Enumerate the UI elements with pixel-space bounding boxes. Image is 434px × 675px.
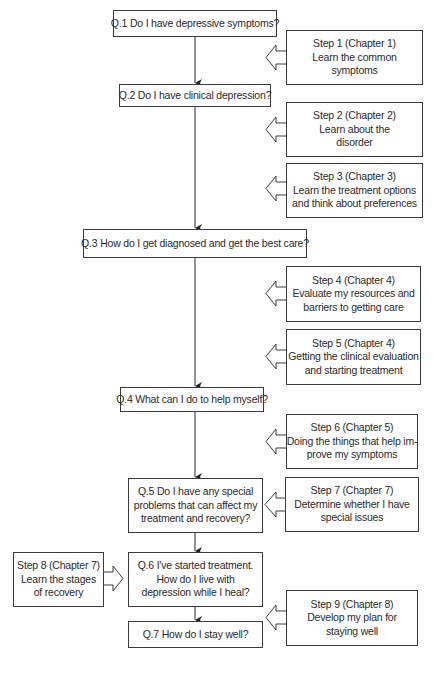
step-title: Step 8 (Chapter 7) <box>17 559 100 573</box>
step-text-line-1: Evaluate my resources and <box>292 287 414 301</box>
block-arrow-step1-icon <box>266 45 287 70</box>
step-text-line-1: Learn the common <box>312 51 396 65</box>
step-text-line-1: Doing the things that help im- <box>287 435 418 449</box>
question-text-line-3: treatment and recovery? <box>141 512 250 526</box>
block-arrow-step9-icon <box>266 605 287 630</box>
step-box-9: Step 9 (Chapter 8) Develop my plan for s… <box>286 590 418 646</box>
block-arrow-step2-icon <box>266 117 287 142</box>
step-box-8: Step 8 (Chapter 7) Learn the stages of r… <box>13 552 104 607</box>
block-arrow-step5-icon <box>266 344 287 369</box>
question-text: Q.3 How do I get diagnosed and get the b… <box>81 237 309 251</box>
step-text-line-2: of recovery <box>34 586 84 600</box>
step-title: Step 5 (Chapter 4) <box>312 337 395 351</box>
step-text-line-2: symptoms <box>331 64 377 78</box>
step-box-1: Step 1 (Chapter 1) Learn the common symp… <box>286 30 423 85</box>
step-title: Step 4 (Chapter 4) <box>312 274 395 288</box>
block-arrow-step8-icon <box>102 566 123 591</box>
step-box-4: Step 4 (Chapter 4) Evaluate my resources… <box>286 266 421 322</box>
step-box-6: Step 6 (Chapter 5) Doing the things that… <box>286 414 418 469</box>
question-text-line-1: Q.6 I've started treatment. <box>138 559 254 573</box>
step-title: Step 2 (Chapter 2) <box>313 109 396 123</box>
question-box-q1: Q.1 Do I have depressive symptoms? <box>113 10 277 37</box>
step-text-line-2: and think about preferences <box>292 197 417 211</box>
step-box-7: Step 7 (Chapter 7) Determine whether I h… <box>285 477 419 532</box>
question-box-q7: Q.7 How do I stay well? <box>128 621 263 648</box>
block-arrow-step7-icon <box>265 492 286 517</box>
question-box-q4: Q.4 What can I do to help myself? <box>120 387 264 412</box>
step-text-line-1: Learn the treatment options <box>293 184 416 198</box>
step-text-line-1: Develop my plan for <box>307 611 397 625</box>
step-title: Step 3 (Chapter 3) <box>313 170 396 184</box>
question-box-q6: Q.6 I've started treatment. How do I liv… <box>128 552 263 607</box>
question-text-line-1: Q.5 Do I have any special <box>138 485 253 499</box>
question-text: Q.2 Do I have clinical depression? <box>119 89 272 103</box>
question-text-line-2: How do I live with <box>156 573 234 587</box>
step-text-line-2: prove my symptoms <box>307 448 398 462</box>
step-text-line-2: disorder <box>336 136 372 150</box>
step-box-2: Step 2 (Chapter 2) Learn about the disor… <box>286 102 423 157</box>
step-text-line-2: and starting treatment <box>305 364 403 378</box>
block-arrow-step6-icon <box>266 429 287 454</box>
step-text-line-1: Learn the stages <box>21 573 96 587</box>
step-title: Step 6 (Chapter 5) <box>311 421 394 435</box>
step-title: Step 1 (Chapter 1) <box>313 37 396 51</box>
question-text-line-2: problems that can affect my <box>134 499 257 513</box>
step-title: Step 9 (Chapter 8) <box>311 598 394 612</box>
step-text-line-1: Getting the clinical evaluation <box>288 350 418 364</box>
block-arrow-step4-icon <box>266 281 287 306</box>
step-text-line-1: Determine whether I have <box>294 498 409 512</box>
step-box-5: Step 5 (Chapter 4) Getting the clinical … <box>286 329 421 385</box>
question-text-line-3: depression while I heal? <box>142 586 250 600</box>
flowchart-canvas: Q.1 Do I have depressive symptoms? Q.2 D… <box>0 0 434 675</box>
step-text-line-2: staying well <box>326 625 378 639</box>
step-text-line-2: barriers to getting care <box>303 301 403 315</box>
step-box-3: Step 3 (Chapter 3) Learn the treatment o… <box>286 163 423 218</box>
question-text: Q.1 Do I have depressive symptoms? <box>111 17 279 31</box>
step-title: Step 7 (Chapter 7) <box>311 484 394 498</box>
question-box-q2: Q.2 Do I have clinical depression? <box>119 84 271 107</box>
question-box-q3: Q.3 How do I get diagnosed and get the b… <box>83 229 307 258</box>
question-text: Q.4 What can I do to help myself? <box>116 393 268 407</box>
step-text-line-2: special issues <box>321 511 384 525</box>
block-arrow-step3-icon <box>266 176 287 201</box>
question-box-q5: Q.5 Do I have any special problems that … <box>128 478 263 533</box>
step-text-line-1: Learn about the <box>319 123 390 137</box>
question-text: Q.7 How do I stay well? <box>143 628 249 642</box>
